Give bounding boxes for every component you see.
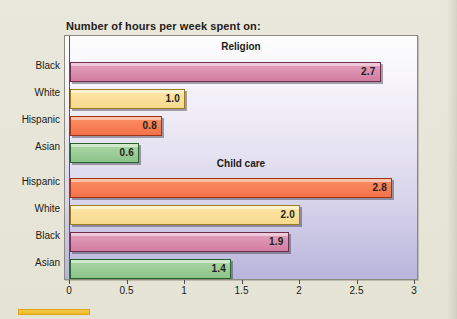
x-tick-label: 1 [181,285,187,296]
bar-value-label: 1.9 [269,237,284,247]
x-tick-mark [184,280,185,284]
x-tick-mark [242,280,243,284]
bar-value-label: 2.0 [280,210,295,220]
ytick-childcare-black: Black [0,230,60,241]
bar-value-label: 2.8 [372,183,387,193]
bar-highlight [71,233,288,236]
x-tick-label: 1.5 [235,285,249,296]
bar-childcare-asian: 1.4 [70,259,231,279]
x-tick-label: 0 [66,285,72,296]
ytick-childcare-hispanic: Hispanic [0,176,60,187]
bar-childcare-white: 2.0 [70,205,300,225]
bar-value-label: 0.6 [119,148,134,158]
chart-page: Number of hours per week spent on: Relig… [0,0,457,319]
x-tick-label: 2 [296,285,302,296]
bar-value-label: 1.0 [165,94,180,104]
bar-highlight [71,63,380,66]
x-tick-label: 2.5 [350,285,364,296]
page-title: Number of hours per week spent on: [66,20,261,32]
ytick-religion-asian: Asian [0,141,60,152]
group-label-religion: Religion [65,41,417,52]
bar-religion-black: 2.7 [70,62,381,82]
bar-religion-hispanic: 0.8 [70,116,162,136]
x-tick-label: 0.5 [120,285,134,296]
x-tick-label: 3 [411,285,417,296]
x-tick-mark [357,280,358,284]
ytick-religion-black: Black [0,60,60,71]
bar-highlight [71,179,391,182]
bar-religion-white: 1.0 [70,89,185,109]
ytick-religion-white: White [0,87,60,98]
bar-childcare-hispanic: 2.8 [70,178,392,198]
x-tick-mark [127,280,128,284]
bar-childcare-black: 1.9 [70,232,289,252]
ytick-religion-hispanic: Hispanic [0,114,60,125]
x-axis: 00.511.522.53 [64,280,418,302]
ytick-childcare-white: White [0,203,60,214]
bar-highlight [71,260,230,263]
bar-value-label: 0.8 [142,121,157,131]
bar-value-label: 1.4 [211,264,226,274]
plot-area: Religion 2.7 1.0 0.8 0.6 Child care 2.8 … [64,35,418,280]
bar-value-label: 2.7 [361,67,376,77]
group-label-child-care: Child care [65,158,417,169]
ytick-childcare-asian: Asian [0,257,60,268]
x-tick-mark [414,280,415,284]
x-tick-mark [69,280,70,284]
bar-highlight [71,206,299,209]
page-bottom-strip [18,309,90,315]
x-tick-mark [299,280,300,284]
